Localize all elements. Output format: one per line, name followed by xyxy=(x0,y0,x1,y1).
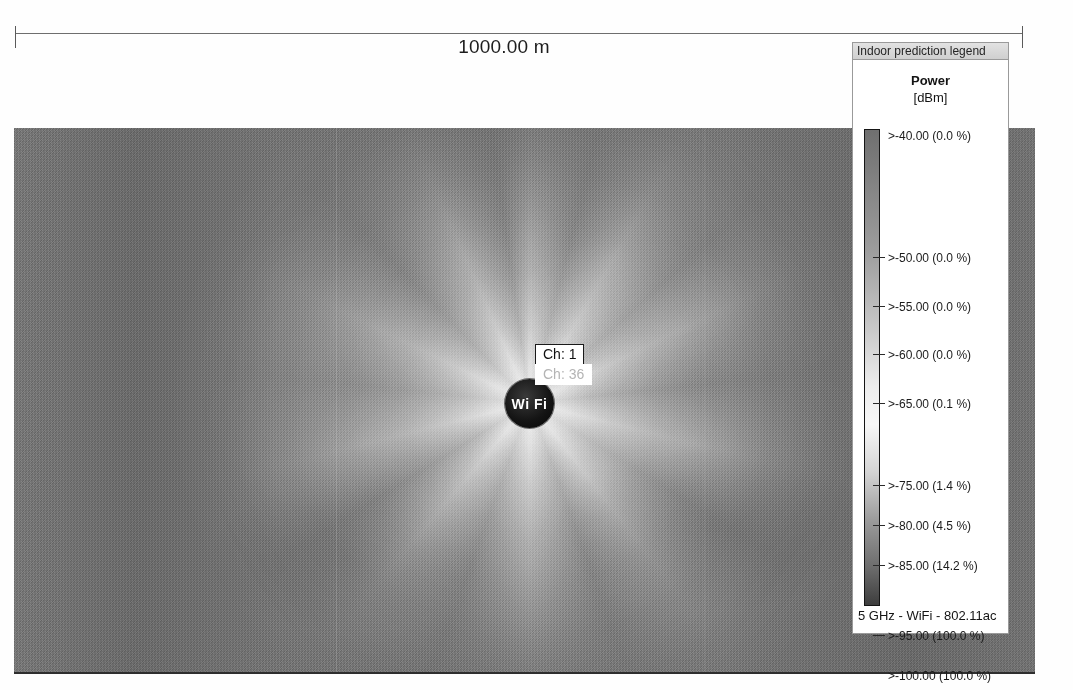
legend-heading: Power [dBm] xyxy=(853,72,1008,106)
legend-footer: 5 GHz - WiFi - 802.11ac xyxy=(858,608,996,623)
legend-entry-tick xyxy=(873,525,885,526)
legend-entry-label: >-95.00 (100.0 %) xyxy=(888,629,984,643)
legend-entry-tick xyxy=(873,306,885,307)
heatmap-canvas: 1000.00 m Wi Fi Ch: 1 Ch: 36 Indoor pred… xyxy=(0,0,1073,690)
legend-entry-label: >-40.00 (0.0 %) xyxy=(888,129,971,143)
channel-secondary-label[interactable]: Ch: 36 xyxy=(535,364,592,385)
legend-entry-label: >-55.00 (0.0 %) xyxy=(888,300,971,314)
legend-entry-label: >-75.00 (1.4 %) xyxy=(888,479,971,493)
scale-bar-tick-right xyxy=(1022,26,1023,48)
legend-entry-tick xyxy=(873,354,885,355)
legend-entry-label: >-65.00 (0.1 %) xyxy=(888,397,971,411)
legend-title-bar: Indoor prediction legend xyxy=(853,43,1008,60)
map-bottom-rule xyxy=(14,672,1035,674)
channel-primary-label[interactable]: Ch: 1 xyxy=(535,344,584,365)
legend-body: Power [dBm] >-40.00 (0.0 %)>-50.00 (0.0 … xyxy=(853,60,1008,633)
legend-entry-label: >-50.00 (0.0 %) xyxy=(888,251,971,265)
legend-entry-label: >-60.00 (0.0 %) xyxy=(888,348,971,362)
legend-entry-label: >-80.00 (4.5 %) xyxy=(888,519,971,533)
legend-heading-text: Power xyxy=(911,73,950,88)
legend-entry-tick xyxy=(873,565,885,566)
legend-entry-label: >-100.00 (100.0 %) xyxy=(888,669,991,683)
wifi-icon-label: Wi Fi xyxy=(505,379,554,428)
legend-entry-label: >-85.00 (14.2 %) xyxy=(888,559,978,573)
legend-entry-tick xyxy=(873,485,885,486)
scale-bar-line xyxy=(15,33,1023,34)
legend-entry-tick xyxy=(873,403,885,404)
legend-entry-tick xyxy=(873,257,885,258)
indoor-prediction-legend-panel[interactable]: Indoor prediction legend Power [dBm] >-4… xyxy=(852,42,1009,634)
access-point-marker[interactable]: Wi Fi xyxy=(505,379,554,428)
legend-entry-tick xyxy=(873,635,885,636)
legend-unit-text: [dBm] xyxy=(853,89,1008,106)
legend-scale-entries: >-40.00 (0.0 %)>-50.00 (0.0 %)>-55.00 (0… xyxy=(864,129,1010,606)
